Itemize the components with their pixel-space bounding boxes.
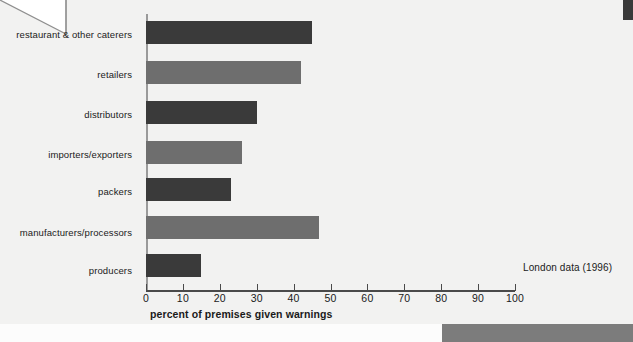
x-tick-label-70: 70 — [398, 292, 410, 304]
bar-distributors — [146, 101, 257, 124]
category-label-producers: producers — [89, 265, 132, 276]
bar-retailers — [146, 61, 301, 84]
x-tick-label-10: 10 — [177, 292, 189, 304]
x-tick-label-100: 100 — [506, 292, 524, 304]
x-tick-label-30: 30 — [251, 292, 263, 304]
bottom-accent-band — [442, 324, 633, 342]
bar-importers-exporters — [146, 141, 242, 164]
x-tick-40 — [294, 284, 295, 291]
category-label-packers: packers — [98, 186, 132, 197]
x-tick-30 — [257, 284, 258, 291]
x-tick-label-60: 60 — [361, 292, 373, 304]
x-tick-0 — [146, 284, 147, 291]
x-tick-label-90: 90 — [472, 292, 484, 304]
x-tick-label-40: 40 — [288, 292, 300, 304]
category-label-retailers: retailers — [97, 69, 132, 80]
x-tick-80 — [441, 284, 442, 291]
bottom-white-strip — [0, 324, 442, 342]
x-tick-label-50: 50 — [324, 292, 336, 304]
category-label-distributors: distributors — [84, 109, 132, 120]
x-tick-70 — [404, 284, 405, 291]
bar-manufacturers-processors — [146, 216, 319, 239]
source-annotation: London data (1996) — [523, 262, 612, 273]
x-tick-60 — [367, 284, 368, 291]
x-tick-label-0: 0 — [143, 292, 149, 304]
x-tick-100 — [515, 284, 516, 291]
category-label-importers-exporters: importers/exporters — [48, 149, 132, 160]
x-axis-title: percent of premises given warnings — [150, 308, 333, 320]
x-tick-label-20: 20 — [214, 292, 226, 304]
x-tick-label-80: 80 — [435, 292, 447, 304]
x-tick-50 — [331, 284, 332, 291]
category-label-restaurant-other-caterers: restaurant & other caterers — [16, 29, 132, 40]
bar-restaurant-other-caterers — [146, 21, 312, 44]
x-tick-90 — [478, 284, 479, 291]
x-tick-20 — [220, 284, 221, 291]
bar-producers — [146, 254, 201, 277]
bar-chart: restaurant & other caterers retailers di… — [0, 0, 633, 342]
right-edge-tab — [623, 0, 633, 20]
category-label-manufacturers-processors: manufacturers/processors — [20, 227, 132, 238]
bar-packers — [146, 178, 231, 201]
x-tick-10 — [183, 284, 184, 291]
